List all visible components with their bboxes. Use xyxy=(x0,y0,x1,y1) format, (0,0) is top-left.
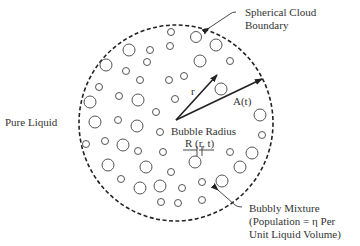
boundary-label-line1: Spherical Cloud xyxy=(245,6,316,18)
spherical-cloud-boundary xyxy=(79,25,273,221)
pure-liquid-label: Pure Liquid xyxy=(5,116,57,128)
boundary-leader-line xyxy=(209,12,236,28)
r-label: r xyxy=(191,85,195,97)
A-label: A(t) xyxy=(233,95,251,107)
bubbles xyxy=(83,29,267,207)
R-label: R (r, t) xyxy=(185,137,214,149)
mixture-label-line3: Unit Liquid Volume) xyxy=(249,228,341,240)
bubble-radius-label: Bubble Radius xyxy=(171,125,236,137)
boundary-label-line2: Boundary xyxy=(245,19,288,31)
mixture-label-line2: (Population = η Per xyxy=(249,215,335,227)
r-arrow xyxy=(176,75,217,120)
mixture-label-line1: Bubbly Mixture xyxy=(249,202,320,214)
